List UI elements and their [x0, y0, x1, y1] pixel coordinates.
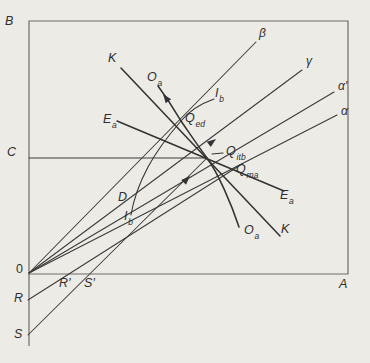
label-r: R [14, 292, 23, 305]
label-r-prime: R′ [59, 277, 71, 290]
label-q-ma: Qma [236, 163, 258, 178]
label-s-prime: S′ [84, 277, 95, 290]
label-ea-left: Ea [103, 113, 116, 128]
arrowhead-s-line-icon [181, 174, 192, 185]
label-ib-top: Ib [215, 87, 224, 102]
label-d: D [118, 191, 127, 204]
label-k-bottom: K [281, 223, 290, 236]
label-origin: 0 [16, 263, 23, 276]
label-beta: β [259, 27, 266, 39]
label-q-itb: Qitb [226, 145, 246, 160]
label-s: S [14, 328, 23, 341]
label-corner-a: A [339, 278, 348, 291]
trade-diagram-figure: B A C 0 R S R′ S′ β γ α′ α K K Oa Oa Ea … [0, 0, 370, 363]
diagram-canvas [0, 0, 370, 363]
label-q-ed: Qed [185, 112, 205, 127]
qitb-pointer-dash [212, 153, 223, 154]
label-ib-bottom: Ib [124, 210, 133, 225]
label-gamma: γ [306, 55, 312, 67]
k-line [121, 68, 280, 236]
ea-line [117, 121, 284, 191]
label-alpha: α [341, 105, 348, 117]
label-k-top: K [108, 52, 117, 65]
label-c: C [7, 146, 16, 159]
label-corner-b: B [5, 15, 14, 28]
arrowhead-gamma-icon [207, 136, 218, 147]
label-oa-top: Oa [147, 71, 162, 86]
label-alpha-prime: α′ [338, 80, 348, 92]
label-oa-bottom: Oa [244, 224, 259, 239]
diagram-box [29, 21, 348, 274]
label-ea-right: Ea [280, 189, 293, 204]
